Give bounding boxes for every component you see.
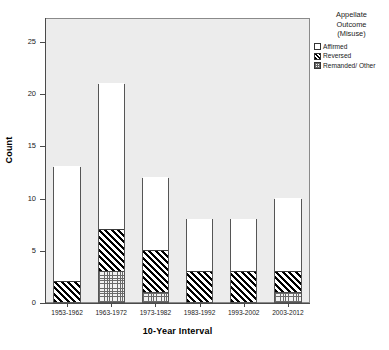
chart-container: 0510152025 1953-19621963-19721973-198219…: [0, 0, 389, 350]
x-tick-mark: [155, 303, 156, 307]
y-tick-label: 20: [6, 90, 36, 98]
y-tick-mark: [40, 199, 45, 200]
stacked-bar[interactable]: [53, 167, 80, 303]
legend-label-remanded: Remanded/ Other: [323, 62, 375, 70]
bar-segment-reversed[interactable]: [54, 281, 79, 302]
bar-group: [266, 18, 310, 303]
legend-label-affirmed: Affirmed: [323, 43, 347, 51]
stacked-bar[interactable]: [274, 199, 301, 303]
stacked-bar[interactable]: [186, 219, 213, 303]
legend-title-line-3: (Misuse): [314, 29, 389, 39]
x-tick-mark: [288, 303, 289, 307]
legend-swatch-reversed-icon: [314, 53, 321, 60]
bar-segment-reversed[interactable]: [187, 271, 212, 302]
y-tick-label: 0: [6, 299, 36, 307]
x-tick-label: 1973-1982: [133, 309, 177, 317]
bar-segment-reversed[interactable]: [143, 250, 168, 292]
y-axis-line: [45, 18, 46, 303]
bar-segment-affirmed[interactable]: [187, 219, 212, 271]
y-tick-mark: [40, 146, 45, 147]
legend-items: Affirmed Reversed Remanded/ Other: [314, 43, 389, 70]
bar-group: [178, 18, 222, 303]
x-tick-mark: [200, 303, 201, 307]
x-tick-mark: [244, 303, 245, 307]
bar-group: [45, 18, 89, 303]
bar-segment-remanded[interactable]: [143, 292, 168, 302]
legend-title: Appellate Outcome (Misuse): [314, 10, 389, 39]
x-axis-title: 10-Year Interval: [45, 326, 310, 336]
legend-title-line-2: Outcome: [314, 20, 389, 30]
stacked-bar[interactable]: [142, 178, 169, 303]
x-tick-label: 2003-2012: [266, 309, 310, 317]
x-tick-label: 1983-1992: [178, 309, 222, 317]
bar-segment-affirmed[interactable]: [275, 198, 300, 271]
legend-swatch-affirmed-icon: [314, 43, 321, 50]
bar-segment-affirmed[interactable]: [143, 177, 168, 250]
y-tick-label: 10: [6, 195, 36, 203]
stacked-bar[interactable]: [98, 84, 125, 303]
y-tick-label: 25: [6, 38, 36, 46]
x-tick-label: 1993-2002: [222, 309, 266, 317]
stacked-bar[interactable]: [230, 219, 257, 303]
bar-segment-reversed[interactable]: [275, 271, 300, 292]
legend-item-reversed[interactable]: Reversed: [314, 52, 389, 60]
x-tick-label: 1963-1972: [89, 309, 133, 317]
bar-segment-reversed[interactable]: [99, 229, 124, 271]
x-axis-line: [45, 303, 310, 304]
x-tick-mark: [67, 303, 68, 307]
y-axis-title: Count: [4, 120, 14, 180]
bar-group: [222, 18, 266, 303]
legend-swatch-remanded-icon: [314, 62, 321, 69]
x-tick-label: 1953-1962: [45, 309, 89, 317]
y-tick-label: 5: [6, 247, 36, 255]
legend-item-affirmed[interactable]: Affirmed: [314, 43, 389, 51]
legend: Appellate Outcome (Misuse) Affirmed Reve…: [314, 10, 389, 71]
legend-item-remanded[interactable]: Remanded/ Other: [314, 62, 389, 70]
bar-segment-affirmed[interactable]: [99, 83, 124, 229]
bar-group: [89, 18, 133, 303]
bars-layer: [45, 18, 310, 303]
bar-group: [133, 18, 177, 303]
bar-segment-remanded[interactable]: [275, 292, 300, 302]
x-tick-mark: [111, 303, 112, 307]
y-tick-mark: [40, 94, 45, 95]
bar-segment-affirmed[interactable]: [231, 219, 256, 271]
legend-title-line-1: Appellate: [314, 10, 389, 20]
bar-segment-affirmed[interactable]: [54, 166, 79, 281]
legend-label-reversed: Reversed: [323, 52, 351, 60]
y-tick-mark: [40, 42, 45, 43]
bar-segment-reversed[interactable]: [231, 271, 256, 302]
y-tick-mark: [40, 303, 45, 304]
bar-segment-remanded[interactable]: [99, 271, 124, 302]
y-tick-mark: [40, 251, 45, 252]
